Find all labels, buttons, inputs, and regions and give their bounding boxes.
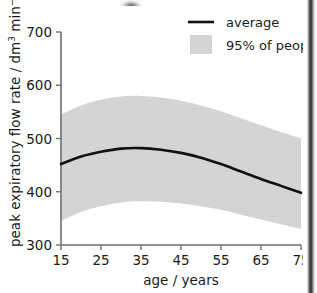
x-tick-label-45: 45 [172, 252, 189, 268]
y-axis-title-prefix: peak expiratory flow rate / dm [7, 42, 23, 247]
scan-artifact-top [120, 0, 142, 6]
y-tick-label-400: 400 [26, 184, 52, 200]
y-axis-tick-labels: 300400500600700 [26, 24, 52, 253]
y-tick-label-300: 300 [26, 237, 52, 253]
scan-page-edge [303, 0, 317, 293]
x-axis-tick-labels: 15253545556575 [52, 252, 309, 268]
y-axis-title: peak expiratory flow rate / dm3 min−1 [7, 0, 23, 247]
y-tick-label-600: 600 [26, 77, 52, 93]
y-axis-title-sup-minus1: −1 [7, 0, 17, 6]
x-tick-label-55: 55 [212, 252, 229, 268]
y-axis-title-mid: min [7, 6, 23, 36]
chart-legend: average 95% of people [188, 15, 317, 54]
peak-expiratory-flow-rate-chart: 300400500600700 15253545556575 age / yea… [0, 0, 317, 293]
x-tick-label-25: 25 [92, 252, 109, 268]
legend-average-label: average [226, 15, 279, 30]
legend-band-swatch-icon [190, 35, 212, 54]
x-tick-label-15: 15 [52, 252, 69, 268]
y-tick-label-700: 700 [26, 24, 52, 40]
x-axis-title-text: age / years [143, 272, 218, 288]
confidence-band-95 [61, 96, 301, 229]
y-tick-label-500: 500 [26, 131, 52, 147]
x-tick-label-35: 35 [132, 252, 149, 268]
chart-figure: 300400500600700 15253545556575 age / yea… [0, 0, 317, 293]
x-axis-title: age / years [143, 272, 218, 288]
x-tick-label-65: 65 [252, 252, 269, 268]
